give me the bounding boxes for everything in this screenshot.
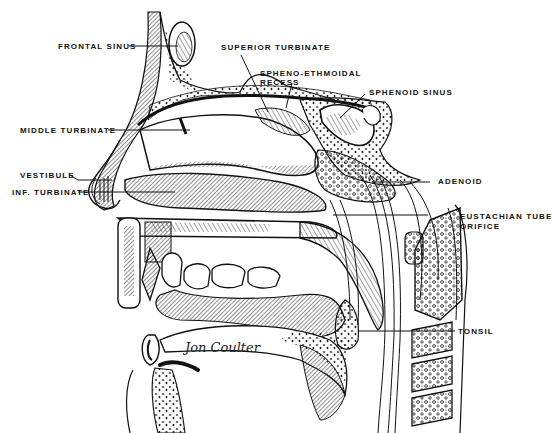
label-spheno-ethmoidal-recess-line1: SPHENO-ETHMOIDAL [260,69,362,78]
cervical-spine [405,205,467,433]
inferior-turbinate-shape [125,173,326,212]
label-adenoid: ADENOID [438,177,483,186]
label-spheno-ethmoidal-recess-line2: RECESS [260,78,300,87]
label-vestibule: VESTIBULE [20,171,75,180]
label-inf-turbinate: INF. TURBINATE [12,188,89,197]
label-superior-turbinate: SUPERIOR TURBINATE [221,43,330,52]
label-middle-turbinate: MIDDLE TURBINATE [20,126,116,135]
label-tonsil: TONSIL [458,327,494,336]
frontal-sinus-shape [169,22,195,66]
anatomy-diagram: FRONTAL SINUS SUPERIOR TURBINATE SPHENO-… [0,0,553,433]
label-sphenoid-sinus: SPHENOID SINUS [369,88,453,97]
label-frontal-sinus: FRONTAL SINUS [58,42,136,51]
label-eustachian-tube-line1: EUSTACHIAN TUBE [460,212,552,221]
label-eustachian-tube-line2: ORIFICE [460,222,500,231]
artist-signature: Jon Coulter [185,340,260,355]
